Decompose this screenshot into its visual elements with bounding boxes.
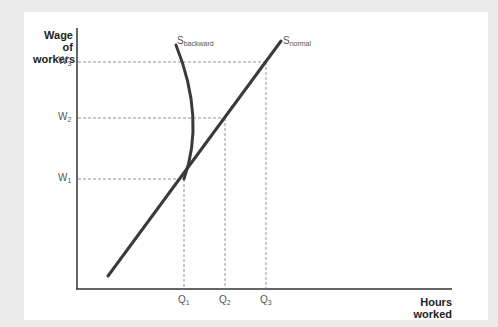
tick-w1: W1 [58,172,71,184]
tick-q2: Q2 [219,294,231,306]
tick-w2: W2 [58,111,71,123]
s-normal-curve [108,41,281,276]
x-title-line2: worked [410,308,452,320]
y-title-line1: Wage of [33,29,73,53]
label-s-backward: Sbackward [177,35,214,47]
tick-q3: Q3 [260,294,272,306]
tick-w3: W3 [58,55,71,67]
chart-canvas [0,0,498,327]
label-s-normal: Snormal [283,35,311,47]
x-axis-title: Hours worked [410,296,452,320]
x-title-line1: Hours [410,296,452,308]
tick-q1: Q1 [178,294,190,306]
s-backward-curve [176,45,193,179]
